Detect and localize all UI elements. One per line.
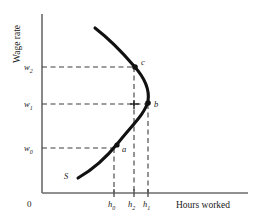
x-tick-label-h2: h2 xyxy=(128,199,135,211)
x-tick-sub-h2: 2 xyxy=(132,205,135,211)
y-tick-label-w2: w2 xyxy=(24,62,33,74)
x-tick-label-h1: h1 xyxy=(143,199,150,211)
origin-label: 0 xyxy=(27,199,32,209)
data-point-b xyxy=(145,100,151,106)
y-tick-sub-w1: 1 xyxy=(30,105,33,111)
curve-label-s: S xyxy=(64,171,69,181)
y-axis-title: Wage rate xyxy=(12,25,22,63)
y-tick-label-w0: w0 xyxy=(24,143,33,155)
economics-figure: a b c S w2 w1 w0 h0 h2 h1 xyxy=(0,0,260,216)
y-axis-tick-labels: w2 w1 w0 xyxy=(24,62,33,155)
x-tick-label-h0: h0 xyxy=(108,199,115,211)
data-point-c xyxy=(132,64,138,70)
x-axis-tick-labels: h0 h2 h1 xyxy=(108,199,150,211)
point-labels: a b c S xyxy=(64,57,158,181)
y-tick-sub-w0: 0 xyxy=(30,149,33,155)
cross-marker xyxy=(130,100,139,109)
data-point-a xyxy=(114,142,119,147)
y-tick-label-w1: w1 xyxy=(24,99,33,111)
point-label-a: a xyxy=(122,144,126,154)
point-label-b: b xyxy=(154,99,158,109)
supply-curve-path xyxy=(78,28,148,178)
x-tick-sub-h1: 1 xyxy=(147,205,150,211)
horizontal-reference-lines xyxy=(42,67,149,148)
supply-curve-group xyxy=(78,28,148,178)
point-label-c: c xyxy=(141,57,145,67)
x-axis-title: Hours worked xyxy=(176,200,230,210)
y-tick-sub-w2: 2 xyxy=(30,68,33,74)
supply-curve-chart: a b c S w2 w1 w0 h0 h2 h1 xyxy=(0,0,260,216)
x-tick-sub-h0: 0 xyxy=(112,205,115,211)
